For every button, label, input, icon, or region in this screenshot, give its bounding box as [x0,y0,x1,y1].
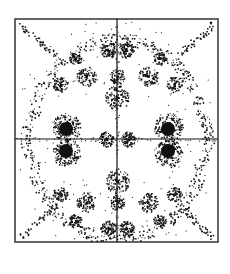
solid-disk [161,144,175,158]
solid-disk [59,122,73,136]
fractal-dots [17,22,217,242]
solid-disk [59,144,73,158]
solid-disk [161,122,175,136]
fractal-figure [0,0,230,274]
fractal-plot [0,0,230,274]
